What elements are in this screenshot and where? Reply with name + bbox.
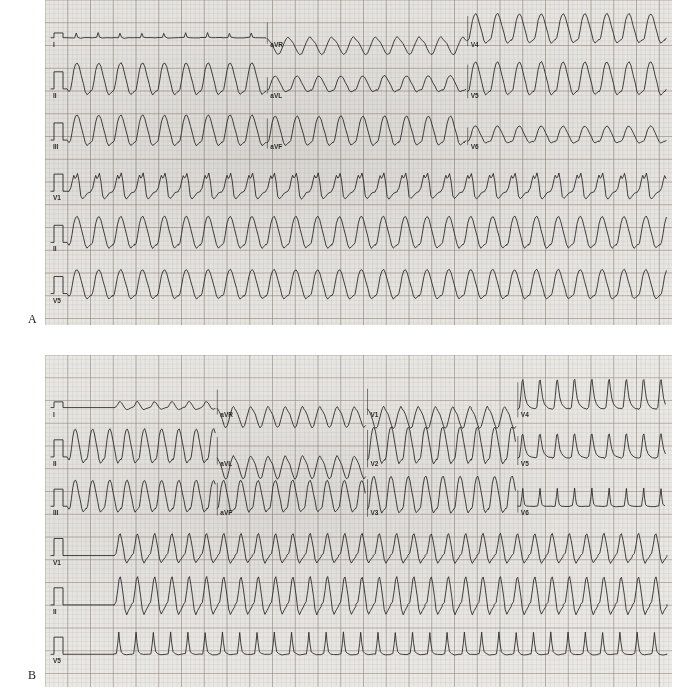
lead-label-v1: V1	[53, 194, 61, 201]
lead-label-avf: aVF	[220, 509, 232, 516]
lead-label-v5: V5	[53, 297, 61, 304]
lead-label-iii: III	[53, 143, 59, 150]
lead-label-v5: V5	[521, 460, 529, 467]
lead-label-v1: V1	[53, 559, 61, 566]
ecg-figure: IaVRV4IIaVLV5IIIaVFV6V1IIV5 A IaVRV1V4II…	[0, 0, 692, 694]
ecg-grid	[45, 355, 672, 687]
lead-label-i: I	[53, 411, 55, 418]
ecg-trace-v1	[51, 173, 666, 199]
ecg-grid-and-traces: IaVRV1V4IIaVLV2V5IIIaVFV3V6V1IIV5	[45, 355, 672, 687]
lead-label-avl: aVL	[220, 460, 232, 467]
panel-letter-b: B	[28, 668, 37, 683]
ecg-trace-v3	[368, 476, 516, 513]
lead-label-v6: V6	[521, 509, 529, 516]
lead-label-ii: II	[53, 245, 57, 252]
ecg-grid-and-traces: IaVRV4IIaVLV5IIIaVFV6V1IIV5	[45, 0, 672, 325]
lead-label-v5: V5	[53, 657, 61, 664]
lead-label-v6: V6	[471, 143, 479, 150]
lead-label-avf: aVF	[270, 143, 282, 150]
panel-letter-a: A	[28, 312, 37, 327]
ecg-trace-v5	[51, 269, 666, 299]
lead-label-i: I	[53, 41, 55, 48]
lead-label-ii: II	[53, 460, 57, 467]
ecg-panel-b: IaVRV1V4IIaVLV2V5IIIaVFV3V6V1IIV5	[45, 355, 672, 687]
ecg-panel-a: IaVRV4IIaVLV5IIIaVFV6V1IIV5	[45, 0, 672, 325]
ecg-trace-avl	[217, 456, 365, 480]
lead-label-ii: II	[53, 608, 57, 615]
ecg-trace-avl	[267, 76, 465, 93]
lead-label-avr: aVR	[270, 41, 283, 48]
lead-label-v3: V3	[371, 509, 379, 516]
lead-label-iii: III	[53, 509, 59, 516]
lead-label-ii: II	[53, 92, 57, 99]
lead-label-avr: aVR	[220, 411, 233, 418]
ecg-traces: IaVRV4IIaVLV5IIIaVFV6V1IIV5	[51, 13, 666, 303]
lead-label-avl: aVL	[270, 92, 282, 99]
lead-label-v5: V5	[471, 92, 479, 99]
lead-label-v4: V4	[521, 411, 529, 418]
lead-label-v4: V4	[471, 41, 479, 48]
lead-label-v2: V2	[371, 460, 379, 467]
lead-label-v1: V1	[371, 411, 379, 418]
